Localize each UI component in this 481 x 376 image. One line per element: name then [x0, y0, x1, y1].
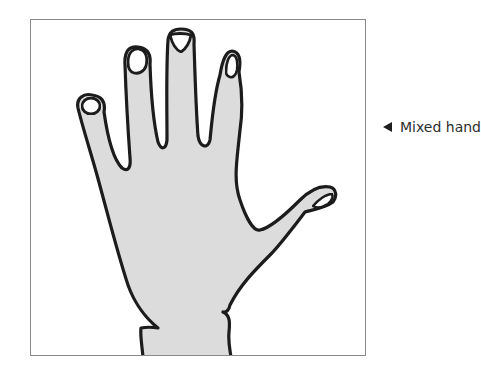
little-finger-nail — [82, 98, 100, 114]
index-finger-nail — [226, 55, 237, 77]
hand-outline — [78, 29, 336, 356]
ring-finger-nail — [128, 49, 147, 73]
hand-illustration — [30, 19, 366, 356]
figure-caption: Mixed hand — [383, 119, 481, 135]
left-triangle-icon — [383, 122, 392, 132]
illustration-frame — [30, 19, 366, 356]
caption-label: Mixed hand — [400, 119, 481, 135]
